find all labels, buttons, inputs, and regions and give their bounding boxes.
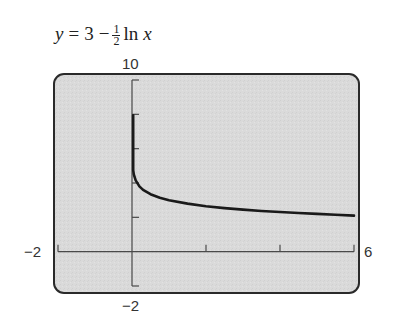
xmax-label: 6 [364,244,372,259]
calculator-screen-frame [54,74,359,293]
ymax-label: 10 [122,56,139,71]
xmin-label: −2 [24,244,41,259]
ymin-label: −2 [122,298,139,313]
graph-window [0,0,393,328]
